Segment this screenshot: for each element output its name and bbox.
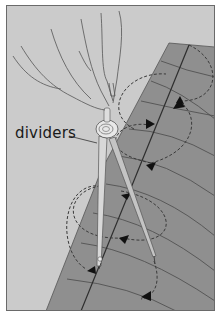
dividers-label: dividers: [15, 124, 76, 142]
hand-outline: [13, 11, 122, 110]
dividers-illustration: [7, 6, 214, 310]
fabric-panel: [46, 43, 214, 310]
illustration-frame: [6, 5, 215, 311]
